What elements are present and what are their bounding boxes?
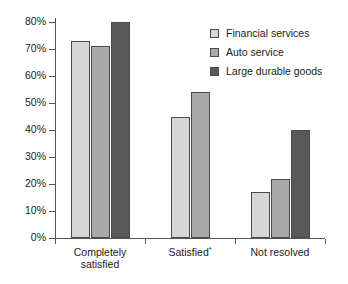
- y-axis-tick-label: 60%: [25, 70, 46, 81]
- x-axis-label-line: Completely: [74, 246, 127, 258]
- legend-label: Large durable goods: [226, 66, 322, 77]
- x-axis-line: [55, 238, 325, 239]
- y-axis-tick-label: 40%: [25, 124, 46, 135]
- bar: [171, 117, 190, 239]
- y-axis-tick-label: 80%: [25, 16, 46, 27]
- y-axis-tick-label: 20%: [25, 178, 46, 189]
- bar: [251, 192, 270, 238]
- bar: [71, 41, 90, 238]
- x-axis-tick: [55, 239, 56, 244]
- bar-chart: 0%10%20%30%40%50%60%70%80% Completelysat…: [0, 0, 348, 284]
- bar: [191, 92, 210, 238]
- x-axis-tick: [235, 239, 236, 244]
- x-axis-category-label: Satisfied*: [145, 246, 235, 258]
- legend: Financial servicesAuto serviceLarge dura…: [210, 24, 322, 81]
- legend-item: Auto service: [210, 43, 322, 62]
- x-axis-label-line: satisfied: [55, 258, 145, 270]
- bar: [291, 130, 310, 238]
- legend-item: Financial services: [210, 24, 322, 43]
- y-axis-tick-label: 30%: [25, 151, 46, 162]
- x-axis-tick: [145, 239, 146, 244]
- x-axis-category-label: Completelysatisfied: [55, 246, 145, 270]
- x-axis-category-label: Not resolved: [235, 246, 325, 258]
- legend-swatch-icon: [210, 29, 219, 38]
- y-axis-tick-label: 50%: [25, 97, 46, 108]
- bar: [271, 179, 290, 238]
- y-axis-tick-label: 70%: [25, 43, 46, 54]
- bar: [91, 46, 110, 238]
- x-axis-tick: [325, 239, 326, 244]
- legend-swatch-icon: [210, 67, 219, 76]
- legend-item: Large durable goods: [210, 62, 322, 81]
- legend-label: Auto service: [226, 47, 284, 58]
- legend-swatch-icon: [210, 48, 219, 57]
- x-axis-label-line: Not resolved: [251, 246, 310, 258]
- bar: [111, 22, 130, 238]
- y-axis-tick-label: 10%: [25, 205, 46, 216]
- footnote-marker: *: [209, 246, 212, 253]
- y-axis-tick-label: 0%: [31, 232, 46, 243]
- x-axis-label-line: Satisfied*: [168, 246, 211, 258]
- legend-label: Financial services: [226, 28, 309, 39]
